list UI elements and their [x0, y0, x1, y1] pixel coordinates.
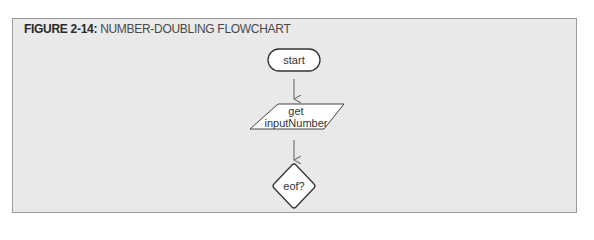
start-label: start — [268, 54, 320, 66]
input-label-line1: get — [254, 105, 338, 117]
decision-label: eof? — [274, 180, 314, 192]
input-label-line2: inputNumber — [254, 117, 338, 129]
